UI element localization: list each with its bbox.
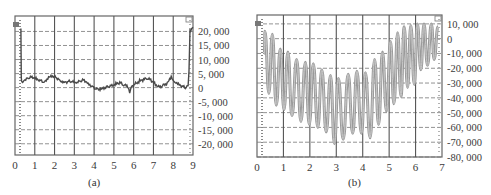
- x-tick-label: 6: [413, 161, 419, 173]
- y-tick-label: -20, 000: [447, 63, 482, 74]
- x-tick-label: 9: [190, 159, 196, 171]
- y-tick-label: -10, 000: [447, 48, 482, 59]
- y-tick-label: -30, 000: [447, 78, 482, 89]
- chart-panel-b: 10, 0000-10, 000-20, 000-30, 000-40, 000…: [245, 0, 491, 195]
- chart-b-plot: 10, 0000-10, 000-20, 000-30, 000-40, 000…: [245, 0, 491, 175]
- y-tick-label: 5, 000: [198, 69, 224, 80]
- chart-a-plot: 20, 00015, 00010, 0005, 0000-5, 000-10, …: [0, 0, 245, 175]
- x-tick-label: 2: [52, 159, 58, 171]
- chart-b-caption: (b): [348, 176, 361, 188]
- y-tick-label: -10, 000: [198, 111, 233, 122]
- y-tick-label: -50, 000: [447, 108, 482, 119]
- x-tick-label: 6: [131, 159, 137, 171]
- y-tick-label: -40, 000: [447, 93, 482, 104]
- x-tick-label: 3: [72, 159, 78, 171]
- x-tick-label: 4: [360, 161, 366, 173]
- left-edge-marker-icon: [13, 22, 19, 27]
- x-tick-label: 1: [281, 161, 287, 173]
- x-tick-label: 0: [254, 161, 260, 173]
- x-tick-label: 0: [12, 159, 18, 171]
- x-tick-label: 3: [334, 161, 340, 173]
- x-tick-label: 1: [32, 159, 38, 171]
- x-tick-label: 7: [439, 161, 445, 173]
- x-tick-label: 4: [91, 159, 97, 171]
- y-tick-label: 20, 000: [198, 26, 230, 37]
- y-tick-label: -15, 000: [198, 125, 233, 136]
- x-tick-label: 2: [307, 161, 313, 173]
- x-tick-label: 7: [151, 159, 157, 171]
- y-tick-label: -80, 000: [447, 152, 482, 163]
- y-tick-label: 10, 000: [198, 55, 230, 66]
- chart-panel-a: 20, 00015, 00010, 0005, 0000-5, 000-10, …: [0, 0, 245, 195]
- y-tick-label: -20, 000: [198, 139, 233, 150]
- y-tick-label: 15, 000: [198, 40, 230, 51]
- y-tick-label: -60, 000: [447, 122, 482, 133]
- y-tick-label: 0: [198, 83, 203, 94]
- x-tick-label: 8: [170, 159, 176, 171]
- y-tick-label: -70, 000: [447, 137, 482, 148]
- y-tick-label: 10, 000: [447, 19, 479, 30]
- x-tick-label: 5: [111, 159, 117, 171]
- chart-a-caption: (a): [88, 176, 100, 188]
- y-tick-label: 0: [447, 34, 452, 45]
- y-tick-label: -5, 000: [198, 97, 228, 108]
- x-tick-label: 5: [386, 161, 392, 173]
- left-edge-marker-icon: [255, 21, 261, 26]
